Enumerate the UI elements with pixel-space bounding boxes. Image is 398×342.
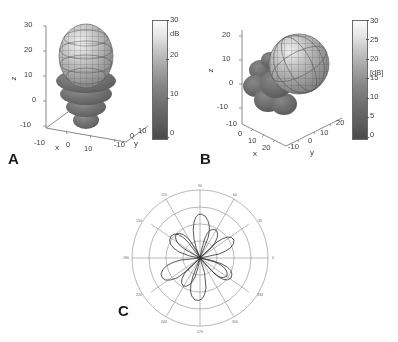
panel-a-ztick-neg10: -10 bbox=[20, 120, 31, 129]
panel-c-plot: 90 60 30 0 330 300 270 240 210 180 150 1… bbox=[115, 186, 285, 336]
panel-a-ytick-neg10: -10 bbox=[114, 140, 125, 149]
panel-b-colorbar-gradient bbox=[352, 20, 368, 140]
panel-a-cbtick-0: 0 bbox=[170, 128, 174, 137]
svg-text:0: 0 bbox=[272, 256, 274, 260]
panel-b-cbtick-25: 25 bbox=[370, 35, 378, 44]
panel-a-cb-tickmark bbox=[166, 20, 169, 21]
panel-b-zlabel: z bbox=[206, 69, 215, 73]
svg-text:120: 120 bbox=[161, 193, 167, 197]
panel-b-xtick-neg10: -10 bbox=[226, 119, 237, 128]
panel-a-ylabel: y bbox=[134, 139, 138, 148]
panel-a-xtick-neg10: -10 bbox=[34, 138, 45, 147]
svg-text:210: 210 bbox=[136, 293, 142, 297]
panel-a-xlabel: x bbox=[55, 143, 59, 152]
panel-a-ztick-0: 0 bbox=[32, 95, 36, 104]
svg-text:30: 30 bbox=[258, 219, 262, 223]
panel-a-xtick-0: 0 bbox=[66, 140, 70, 149]
panel-a-cbtick-30: 30 bbox=[170, 15, 178, 24]
panel-b-ztick-20: 20 bbox=[222, 30, 230, 39]
svg-text:90: 90 bbox=[198, 184, 202, 188]
panel-b-label: B bbox=[200, 150, 211, 167]
panel-b-cbtick-15: 15 bbox=[370, 73, 378, 82]
panel-a-zlabel: z bbox=[9, 77, 18, 81]
panel-b-cbtick-20: 20 bbox=[370, 54, 378, 63]
panel-a-ztick-10: 10 bbox=[24, 70, 32, 79]
panel-b-ytick-neg10: -10 bbox=[288, 142, 299, 151]
panel-a-cbtick-10: 10 bbox=[170, 89, 178, 98]
svg-text:180: 180 bbox=[123, 256, 129, 260]
panel-b-cbtick-0: 0 bbox=[370, 130, 374, 139]
svg-text:60: 60 bbox=[233, 193, 237, 197]
panel-b-xlabel: x bbox=[253, 149, 257, 158]
panel-b-ztick-0: 0 bbox=[229, 78, 233, 87]
panel-b-cb-tickmark bbox=[366, 59, 369, 60]
panel-a-colorbar: 30 dB 20 10 0 bbox=[152, 14, 198, 144]
panel-b-cb-tickmark bbox=[366, 137, 369, 138]
panel-a-cbtick-20: 20 bbox=[170, 50, 178, 59]
panel-b-ytick-0: 0 bbox=[308, 136, 312, 145]
svg-text:150: 150 bbox=[136, 219, 142, 223]
panel-a-colorbar-gradient bbox=[152, 20, 168, 140]
panel-b-cb-tickmark bbox=[366, 20, 369, 21]
panel-b-cb-tickmark bbox=[366, 98, 369, 99]
panel-b-ylabel: y bbox=[310, 148, 314, 157]
panel-b-cb-tickmark bbox=[366, 78, 369, 79]
panel-b-ztick-neg10: -10 bbox=[217, 102, 228, 111]
panel-b-cb-tickmark bbox=[366, 39, 369, 40]
panel-c-label: C bbox=[118, 302, 129, 319]
panel-a-xtick-10: 10 bbox=[84, 144, 92, 153]
panel-a-ztick-30: 30 bbox=[24, 20, 32, 29]
panel-b-colorbar: 30 25 20 [dB] 15 10 5 0 bbox=[352, 14, 398, 144]
svg-text:330: 330 bbox=[257, 293, 263, 297]
panel-b-cbtick-30: 30 bbox=[370, 16, 378, 25]
svg-text:240: 240 bbox=[161, 320, 167, 324]
panel-c-pattern bbox=[161, 214, 234, 301]
panel-b-xtick-10: 10 bbox=[248, 136, 256, 145]
svg-text:300: 300 bbox=[232, 320, 238, 324]
panel-a-colorbar-title: dB bbox=[170, 29, 179, 38]
panel-a-label: A bbox=[8, 150, 19, 167]
panel-b-xtick-0: 0 bbox=[238, 129, 242, 138]
panel-a-cb-tickmark bbox=[166, 59, 169, 60]
panel-a-plot bbox=[8, 8, 158, 158]
panel-b-ytick-10: 10 bbox=[320, 128, 328, 137]
panel-a: 30 20 10 0 -10 z -10 x 0 10 -10 0 10 y bbox=[8, 8, 158, 158]
panel-a-ztick-20: 20 bbox=[24, 45, 32, 54]
panel-b-ztick-10: 10 bbox=[222, 54, 230, 63]
panel-a-cb-tickmark bbox=[166, 137, 169, 138]
panel-a-ytick-10: 10 bbox=[138, 126, 146, 135]
panel-b-xtick-20: 20 bbox=[262, 143, 270, 152]
panel-a-main-lobe bbox=[59, 24, 113, 88]
panel-b-cbtick-10: 10 bbox=[370, 92, 378, 101]
panel-a-cb-tickmark bbox=[166, 98, 169, 99]
panel-c: 90 60 30 0 330 300 270 240 210 180 150 1… bbox=[115, 186, 285, 336]
panel-b: 20 10 0 -10 z -10 0 10 20 x -10 0 10 20 … bbox=[200, 8, 350, 158]
panel-b-ytick-20: 20 bbox=[336, 118, 344, 127]
panel-b-cbtick-5: 5 bbox=[370, 111, 374, 120]
svg-text:270: 270 bbox=[197, 330, 203, 334]
panel-b-cb-tickmark bbox=[366, 117, 369, 118]
